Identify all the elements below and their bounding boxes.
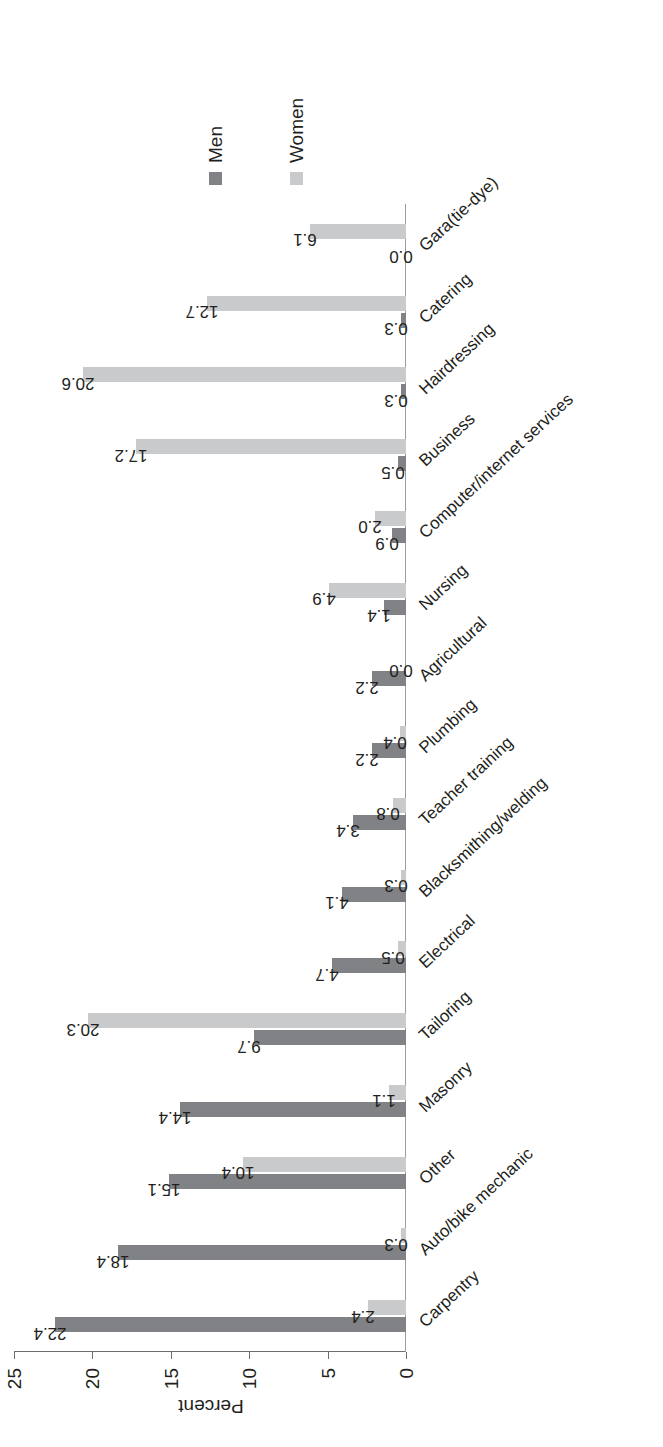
- chart-figure: 0510152025 22.42.4Carpentry18.40.3Auto/b…: [0, 0, 663, 1447]
- bar-women[interactable]: 0.5: [398, 941, 406, 956]
- bar-value-label: 10.4: [221, 1164, 254, 1181]
- category-label: Carpentry: [416, 1267, 482, 1330]
- bar-value-label: 2.2: [355, 751, 379, 768]
- bar-group: 0.320.6Hairdressing: [14, 348, 406, 420]
- bar-value-label: 0.0: [389, 248, 413, 265]
- y-axis-tick-label: 15: [161, 1368, 180, 1389]
- bar-value-label: 4.7: [315, 966, 339, 983]
- bar-men[interactable]: 15.1: [169, 1174, 406, 1189]
- chart-page: 0510152025 22.42.4Carpentry18.40.3Auto/b…: [0, 0, 663, 1447]
- bar-men[interactable]: 0.3: [401, 313, 406, 328]
- y-axis-tick: 15: [171, 1352, 172, 1359]
- category-label: Masonry: [416, 1058, 475, 1115]
- bar-group: 18.40.3Auto/bike mechanic: [14, 1209, 406, 1281]
- category-label: Computer/internet services: [416, 390, 576, 541]
- bar-group: 2.20.0Agricultural: [14, 635, 406, 707]
- y-axis-tick-label: 20: [83, 1368, 102, 1389]
- plot-area: 0510152025 22.42.4Carpentry18.40.3Auto/b…: [14, 204, 406, 1352]
- bar-women[interactable]: 0.4: [400, 726, 406, 741]
- bar-value-label: 2.2: [355, 679, 379, 696]
- bar-women[interactable]: 1.1: [389, 1085, 406, 1100]
- category-label: Nursing: [416, 561, 470, 613]
- bar-women[interactable]: 2.0: [375, 511, 406, 526]
- y-axis-tick: 10: [249, 1352, 250, 1359]
- chart-legend: MenWomen: [206, 98, 368, 185]
- y-axis-tick: 25: [14, 1352, 15, 1359]
- bar-women[interactable]: 17.2: [136, 439, 406, 454]
- legend-label: Women: [287, 98, 306, 163]
- y-axis-tick: 5: [328, 1352, 329, 1359]
- y-axis-tick-label: 25: [5, 1368, 24, 1389]
- bar-group: 3.40.8Teacher training: [14, 778, 406, 850]
- bar-value-label: 4.1: [325, 894, 349, 911]
- bar-value-label: 0.3: [384, 877, 408, 894]
- bar-men[interactable]: 1.4: [384, 600, 406, 615]
- bar-value-label: 0.4: [383, 734, 407, 751]
- bar-group: 0.92.0Computer/internet services: [14, 491, 406, 563]
- bar-group: 4.10.3Blacksmithing/welding: [14, 850, 406, 922]
- category-label: Tailoring: [416, 988, 474, 1044]
- bar-value-label: 0.9: [375, 535, 399, 552]
- bar-men[interactable]: 9.7: [254, 1030, 406, 1045]
- bar-value-label: 0.0: [389, 662, 413, 679]
- category-label: Agricultural: [416, 614, 490, 684]
- bar-value-label: 0.3: [384, 392, 408, 409]
- bar-group: 0.312.7Catering: [14, 276, 406, 348]
- bar-value-label: 1.1: [372, 1092, 396, 1109]
- bar-women[interactable]: 0.3: [401, 1228, 406, 1243]
- bar-value-label: 0.3: [384, 320, 408, 337]
- bar-group: 14.41.1Masonry: [14, 1065, 406, 1137]
- bar-women[interactable]: 20.6: [83, 367, 406, 382]
- bar-value-label: 14.4: [159, 1109, 192, 1126]
- y-axis-title: Percent: [178, 1395, 243, 1417]
- bar-value-label: 12.7: [185, 303, 218, 320]
- bar-value-label: 15.1: [148, 1181, 181, 1198]
- bar-women[interactable]: 6.1: [310, 224, 406, 239]
- category-label: Hairdressing: [416, 320, 497, 398]
- bar-value-label: 17.2: [115, 447, 148, 464]
- bar-value-label: 20.3: [66, 1021, 99, 1038]
- bar-group: 4.70.5Electrical: [14, 922, 406, 994]
- bar-women[interactable]: 12.7: [207, 296, 406, 311]
- bar-group: 15.110.4Other: [14, 1137, 406, 1209]
- bar-value-label: 9.7: [237, 1038, 261, 1055]
- y-axis-tick: 0: [406, 1352, 407, 1359]
- bar-group: 2.20.4Plumbing: [14, 706, 406, 778]
- bar-men[interactable]: 0.5: [398, 456, 406, 471]
- bar-group: 0.517.2Business: [14, 419, 406, 491]
- legend-item[interactable]: Men: [206, 98, 225, 185]
- bar-group: 9.720.3Tailoring: [14, 993, 406, 1065]
- bar-women[interactable]: 2.4: [368, 1300, 406, 1315]
- bar-women[interactable]: 10.4: [243, 1157, 406, 1172]
- bar-women[interactable]: 0.3: [401, 870, 406, 885]
- category-label: Other: [416, 1146, 459, 1187]
- category-label: Gara(tie-dye): [416, 174, 501, 255]
- category-label: Catering: [416, 270, 475, 326]
- bar-value-label: 6.1: [294, 231, 318, 248]
- bar-value-label: 2.4: [352, 1308, 376, 1325]
- bar-value-label: 0.3: [384, 1236, 408, 1253]
- bar-men[interactable]: 0.3: [401, 384, 406, 399]
- bar-value-label: 3.4: [336, 822, 360, 839]
- bar-value-label: 20.6: [61, 375, 94, 392]
- category-label: Blacksmithing/welding: [416, 774, 550, 900]
- legend-swatch-women: [290, 172, 303, 185]
- bar-group: 0.06.1Gara(tie-dye): [14, 204, 406, 276]
- y-axis-tick-label: 10: [240, 1368, 259, 1389]
- category-label: Electrical: [416, 912, 478, 971]
- bar-group: 1.44.9Nursing: [14, 563, 406, 635]
- bar-value-label: 2.0: [358, 518, 382, 535]
- bar-value-label: 22.4: [33, 1325, 66, 1342]
- legend-swatch-men: [209, 172, 222, 185]
- legend-item[interactable]: Women: [287, 98, 306, 185]
- bar-value-label: 0.8: [377, 805, 401, 822]
- bar-value-label: 0.5: [381, 949, 405, 966]
- bar-men[interactable]: 18.4: [118, 1245, 407, 1260]
- category-label: Plumbing: [416, 696, 479, 757]
- bar-men[interactable]: 0.9: [392, 528, 406, 543]
- bar-women[interactable]: 4.9: [329, 583, 406, 598]
- bar-value-label: 0.5: [381, 464, 405, 481]
- bar-women[interactable]: 20.3: [88, 1013, 406, 1028]
- bar-women[interactable]: 0.8: [393, 798, 406, 813]
- bar-value-label: 1.4: [367, 607, 391, 624]
